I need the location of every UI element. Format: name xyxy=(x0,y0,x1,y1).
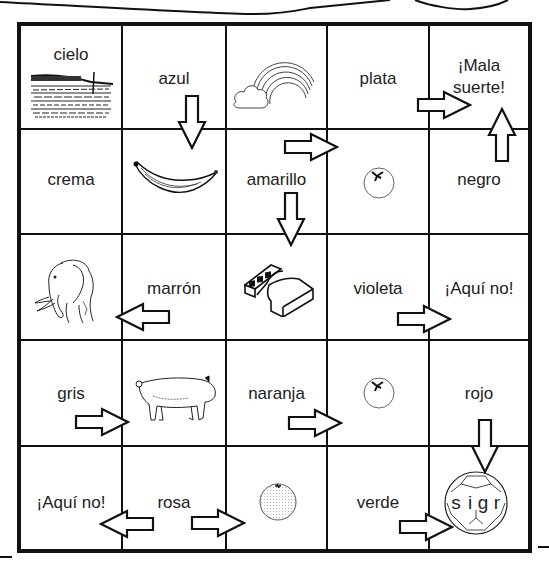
sky-seascape-picture xyxy=(31,72,113,122)
cell-label: naranja xyxy=(227,383,326,404)
cell-label: marrón xyxy=(123,278,225,299)
arrow-right-icon xyxy=(396,304,452,334)
cell-label: rojo xyxy=(430,383,528,404)
arrow-left-icon xyxy=(115,302,171,332)
ball-letter-i: i xyxy=(465,492,475,513)
arrow-down-icon xyxy=(470,418,500,474)
cell-tomato-1[interactable] xyxy=(328,130,428,233)
arrow-left-icon xyxy=(99,509,155,539)
cell-elephant[interactable] xyxy=(21,235,121,340)
ball-letter-r: r xyxy=(491,492,503,513)
cell-banana[interactable] xyxy=(123,130,225,233)
pig-picture xyxy=(133,374,219,424)
arrow-down-icon xyxy=(276,191,306,247)
banana-picture xyxy=(131,160,219,200)
ball-letter-s: s xyxy=(449,492,463,513)
arrow-up-icon xyxy=(487,107,517,163)
cell-label: ¡Aquí no! xyxy=(430,278,528,299)
cell-plata[interactable]: plata xyxy=(328,26,428,128)
ball-letter-g: g xyxy=(476,492,490,513)
cell-label: violeta xyxy=(328,278,428,299)
cell-chocolate[interactable] xyxy=(227,235,326,340)
orange-picture xyxy=(257,480,299,522)
cell-label: cielo xyxy=(21,44,121,65)
arrow-right-icon xyxy=(287,408,343,438)
cell-azul[interactable]: azul xyxy=(123,26,225,128)
arrow-right-icon xyxy=(283,132,339,162)
arrow-right-icon xyxy=(190,508,246,538)
cell-crema[interactable]: crema xyxy=(21,130,121,233)
tomato-picture xyxy=(361,374,397,410)
cell-label: gris xyxy=(21,383,121,404)
margin-tick-right xyxy=(538,546,549,548)
arrow-right-icon xyxy=(74,407,130,437)
arrow-right-icon xyxy=(416,90,472,120)
cell-tomato-2[interactable] xyxy=(328,342,428,446)
rainbow-cloud-picture xyxy=(232,52,317,112)
cell-label: crema xyxy=(21,169,121,190)
cell-label-line1: ¡Mala xyxy=(430,55,528,76)
page-edge-curve xyxy=(0,0,549,22)
cell-pig[interactable] xyxy=(123,342,225,446)
cell-label: verde xyxy=(328,492,428,513)
cell-label: negro xyxy=(430,169,528,190)
arrow-right-icon xyxy=(398,512,454,542)
cell-label: azul xyxy=(123,68,225,89)
cell-rainbow[interactable] xyxy=(227,26,326,128)
margin-tick-left xyxy=(0,556,12,558)
cell-cielo[interactable]: cielo xyxy=(21,26,121,128)
cell-label: plata xyxy=(328,68,428,89)
tomato-picture xyxy=(361,164,397,200)
cell-label: amarillo xyxy=(227,169,326,190)
arrow-down-icon xyxy=(177,94,207,150)
elephant-picture xyxy=(33,257,103,327)
chocolate-bar-picture xyxy=(239,255,315,317)
